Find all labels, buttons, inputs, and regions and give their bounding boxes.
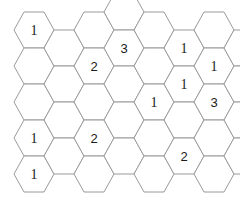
hexagon-cell-label: 1 [31, 131, 38, 146]
hexagon-grid-figure: 11122311121312 [0, 0, 240, 202]
hexagon-cell-label: 2 [90, 59, 97, 74]
hexagon-cell-label: 2 [180, 149, 187, 164]
hexagon-grid-canvas: 11122311121312 [0, 0, 240, 202]
hexagon-cell-label: 1 [181, 77, 188, 92]
hexagon-cell-layer: 11122311121312 [14, 0, 240, 192]
hexagon-cell-label: 3 [120, 41, 127, 56]
hexagon-cell-label: 1 [181, 41, 188, 56]
hexagon-cell-label: 3 [210, 95, 217, 110]
hexagon-cell-label: 2 [90, 131, 97, 146]
hexagon-cell-label: 1 [31, 23, 38, 38]
hexagon-cell-label: 1 [151, 95, 158, 110]
hexagon-cell-label: 1 [211, 59, 218, 74]
hexagon-cell-label: 1 [31, 167, 38, 182]
